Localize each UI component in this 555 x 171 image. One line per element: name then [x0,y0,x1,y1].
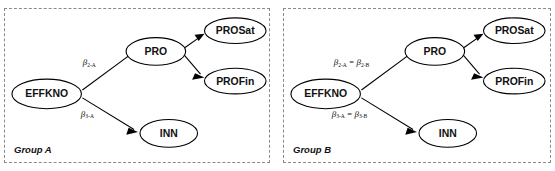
edge-pro-to-prosat [463,34,484,49]
node-effkno-label: EFFKNO [304,88,347,99]
node-effkno: EFFKNO [12,79,81,109]
equals-symbol: = [347,109,352,118]
path-label-effkno-to-pro: β2-A [82,57,96,67]
node-prosat-label: PROSat [495,25,534,36]
edge-pro-to-profin [463,54,484,79]
edge-pro-to-profin [184,54,205,79]
beta-subscript: 2-A [338,62,347,68]
arrowhead-icon [192,73,204,80]
node-prosat: PROSat [484,18,546,44]
node-inn-label: INN [160,128,178,139]
node-inn: INN [419,120,477,148]
beta-subscript: 3-A [85,113,94,119]
group-a-caption: Group A [14,144,52,155]
edge-effkno-to-pro [82,51,135,90]
path-label-effkno-to-pro: β2-A=β2-B [333,57,370,67]
node-inn: INN [140,120,198,148]
group-b-diagram-canvas: EFFKNO PRO INN PROSat PROFin β2-A=β2-B β… [284,9,550,162]
beta-subscript-2: 3-B [359,113,368,119]
path-diagram-figure: EFFKNO PRO INN PROSat PROFin β2-A β3-A [0,0,555,171]
edge-pro-to-prosat [184,34,205,49]
group-a-diagram-canvas: EFFKNO PRO INN PROSat PROFin β2-A β3-A [5,9,269,162]
node-effkno: EFFKNO [291,79,360,109]
panel-group-b: EFFKNO PRO INN PROSat PROFin β2-A=β2-B β… [283,8,551,163]
group-b-caption: Group B [293,144,331,155]
node-prosat: PROSat [204,18,266,44]
beta-subscript: 2-A [87,62,96,68]
node-pro: PRO [405,38,465,66]
node-pro-label: PRO [145,46,168,57]
node-prosat-label: PROSat [216,25,255,36]
edge-effkno-to-pro [361,51,414,90]
beta-subscript-2: 2-B [361,62,370,68]
node-effkno-label: EFFKNO [25,88,68,99]
node-profin-label: PROFin [216,76,254,87]
edge-effkno-to-inn [361,98,417,135]
equals-symbol: = [349,58,354,67]
node-pro: PRO [126,38,186,66]
node-profin: PROFin [204,68,266,94]
node-inn-label: INN [439,128,457,139]
node-profin-label: PROFin [495,76,533,87]
node-pro-label: PRO [424,46,447,57]
arrowhead-icon [471,73,483,80]
path-label-effkno-to-inn: β3-A=β3-B [331,109,368,119]
beta-subscript: 3-A [336,113,345,119]
path-label-effkno-to-inn: β3-A [80,109,94,119]
node-profin: PROFin [484,68,546,94]
panel-group-a: EFFKNO PRO INN PROSat PROFin β2-A β3-A [4,8,270,163]
